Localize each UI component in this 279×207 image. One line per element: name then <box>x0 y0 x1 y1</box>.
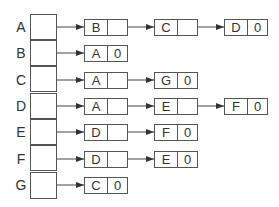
node-vertex: F <box>155 125 178 140</box>
node-next: 0 <box>248 20 267 35</box>
vertex-label: E <box>14 124 28 140</box>
edge-node: F 0 <box>154 124 198 141</box>
node-next: 0 <box>178 125 197 140</box>
edge-node: C <box>154 19 198 36</box>
node-vertex: F <box>225 99 248 114</box>
node-next <box>108 73 127 88</box>
head-cell <box>30 172 57 199</box>
node-next: 0 <box>108 178 127 193</box>
vertex-label: D <box>14 98 28 114</box>
node-next: 0 <box>178 73 197 88</box>
node-vertex: B <box>85 20 108 35</box>
node-next: 0 <box>178 152 197 167</box>
vertex-label: F <box>14 151 28 167</box>
edge-node: C 0 <box>84 177 128 194</box>
vertex-label: C <box>14 72 28 88</box>
edge-node: A <box>84 98 128 115</box>
edge-node: E <box>154 98 198 115</box>
edge-node: F 0 <box>224 98 268 115</box>
node-vertex: D <box>225 20 248 35</box>
head-cell <box>30 145 57 171</box>
node-vertex: C <box>155 20 178 35</box>
edge-node: D <box>84 151 128 168</box>
node-vertex: A <box>85 73 108 88</box>
node-vertex: D <box>85 152 108 167</box>
edge-node: G 0 <box>154 72 198 89</box>
vertex-label: B <box>14 45 28 61</box>
head-cell <box>30 14 57 40</box>
node-vertex: G <box>155 73 178 88</box>
node-next: 0 <box>248 99 267 114</box>
node-next <box>108 152 127 167</box>
head-cell <box>30 40 57 66</box>
edge-node: B <box>84 19 128 36</box>
node-next <box>108 99 127 114</box>
edge-node: D <box>84 124 128 141</box>
node-next <box>178 20 197 35</box>
head-cell <box>30 119 57 145</box>
vertex-label: A <box>14 19 28 35</box>
node-vertex: C <box>85 178 108 193</box>
node-vertex: D <box>85 125 108 140</box>
edge-node: E 0 <box>154 151 198 168</box>
edge-node: A <box>84 72 128 89</box>
node-vertex: A <box>85 46 108 61</box>
head-cell <box>30 93 57 119</box>
node-next <box>178 99 197 114</box>
edge-node: D 0 <box>224 19 268 36</box>
head-cell <box>30 66 57 92</box>
node-vertex: E <box>155 152 178 167</box>
node-next <box>108 125 127 140</box>
edge-node: A 0 <box>84 45 128 62</box>
node-vertex: A <box>85 99 108 114</box>
node-next <box>108 20 127 35</box>
node-vertex: E <box>155 99 178 114</box>
node-next: 0 <box>108 46 127 61</box>
vertex-label: G <box>14 177 28 193</box>
